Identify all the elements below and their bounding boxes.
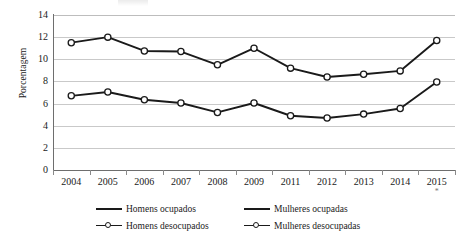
y-tick-label: 2 — [30, 143, 48, 153]
x-tick-label: 2014 — [390, 176, 410, 187]
x-tick — [272, 170, 273, 175]
x-tick-label: 2007 — [171, 176, 191, 187]
cropped-title-artifact — [118, 0, 148, 6]
y-tick-label: 0 — [30, 165, 48, 175]
legend-entry[interactable]: Mulheres desocupadas — [244, 221, 396, 231]
x-tick-label: 2009 — [244, 176, 264, 187]
y-tick-label: 4 — [30, 121, 48, 131]
x-tick — [53, 170, 54, 175]
gridline-2 — [53, 148, 455, 149]
y-axis-tick-labels: 02468101214 — [28, 15, 48, 170]
x-tick-label: 2012 — [317, 176, 337, 187]
gridline-12 — [53, 37, 455, 38]
x-tick-label: 2005 — [98, 176, 118, 187]
legend-line-icon — [244, 204, 270, 214]
y-tick-label: 10 — [30, 54, 48, 64]
legend-label: Homens ocupados — [126, 204, 196, 214]
legend-entry[interactable]: Homens desocupados — [96, 221, 244, 231]
y-tick-label: 8 — [30, 76, 48, 86]
legend-label: Mulheres ocupadas — [274, 204, 348, 214]
legend-entry[interactable]: Homens ocupados — [96, 204, 244, 214]
gridline-14 — [53, 15, 455, 16]
x-axis-footnote-marker: * — [435, 188, 439, 196]
plot-area — [53, 15, 455, 170]
x-tick — [90, 170, 91, 175]
gridline-8 — [53, 81, 455, 82]
x-tick — [126, 170, 127, 175]
x-tick — [163, 170, 164, 175]
line-chart: Porcentagem 02468101214 Homens ocupadosM… — [0, 0, 465, 238]
x-tick — [345, 170, 346, 175]
legend-line-icon — [96, 204, 122, 214]
legend-label: Mulheres desocupadas — [274, 221, 360, 231]
gridline-10 — [53, 59, 455, 60]
legend-entry[interactable]: Mulheres ocupadas — [244, 204, 396, 214]
legend-line-marker-icon — [96, 221, 122, 231]
x-tick — [199, 170, 200, 175]
y-tick-label: 12 — [30, 32, 48, 42]
y-axis-line — [53, 14, 54, 172]
y-tick-label: 14 — [30, 10, 48, 20]
x-tick-label: 2015 — [427, 176, 447, 187]
gridline-6 — [53, 104, 455, 105]
x-tick — [309, 170, 310, 175]
x-tick — [236, 170, 237, 175]
x-tick-label: 2008 — [207, 176, 227, 187]
x-tick-label: 2011 — [281, 176, 301, 187]
x-tick-label: 2004 — [61, 176, 81, 187]
gridline-4 — [53, 126, 455, 127]
y-tick-label: 6 — [30, 99, 48, 109]
legend-line-marker-icon — [244, 221, 270, 231]
x-tick — [382, 170, 383, 175]
x-tick-label: 2013 — [354, 176, 374, 187]
x-tick — [455, 170, 456, 175]
x-tick-label: 2006 — [134, 176, 154, 187]
x-tick — [418, 170, 419, 175]
y-axis-title: Porcentagem — [18, 30, 28, 116]
chart-legend: Homens ocupadosMulheres ocupadasHomens d… — [96, 200, 396, 234]
x-axis-line — [53, 170, 456, 171]
legend-label: Homens desocupados — [126, 221, 209, 231]
